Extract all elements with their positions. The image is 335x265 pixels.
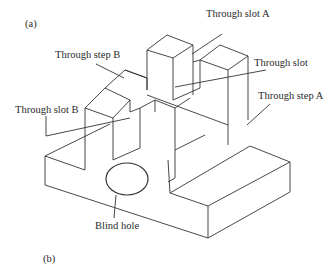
leader-through-step-b <box>96 64 124 78</box>
tall-right-right-top <box>228 56 248 70</box>
step-a-riser <box>168 160 170 193</box>
tall-left-block <box>147 35 193 95</box>
leader-through-slot-b <box>46 116 130 136</box>
step-a-back-edge <box>250 146 290 162</box>
left-block-right-top <box>113 100 130 118</box>
panel-b-label: (b) <box>43 253 55 265</box>
panel-a-label: (a) <box>25 18 37 30</box>
center-step <box>175 135 205 150</box>
label-through-step-b: Through step B <box>55 49 120 61</box>
label-through-slot-a: Through slot A <box>206 8 270 20</box>
tall-right-block <box>200 45 248 120</box>
label-through-step-a: Through step A <box>258 90 323 102</box>
leader-through-slot-a <box>192 34 222 54</box>
slot-a-back <box>193 60 200 62</box>
slot-b-floor <box>113 108 140 160</box>
blind-hole-ellipse <box>106 163 148 195</box>
leader-blind-hole <box>114 195 116 218</box>
slot-b-back <box>130 108 140 112</box>
base-front-top-edge <box>45 156 85 170</box>
step-a-inner-edge <box>170 146 250 193</box>
base-left-face <box>45 156 290 238</box>
step-a-front-edge <box>170 193 208 206</box>
left-block-top-front <box>85 108 113 118</box>
step-b <box>105 70 147 90</box>
tall-right-top-front <box>200 60 228 70</box>
left-block <box>85 88 130 170</box>
isometric-part-drawing <box>0 0 335 265</box>
machined-part-figure: (a) Through slot A Through slot Through … <box>0 0 335 265</box>
tall-left-top-front <box>147 50 173 58</box>
label-blind-hole: Blind hole <box>95 220 139 232</box>
step-b-edge <box>125 70 147 78</box>
tall-left-right-top <box>173 45 193 58</box>
leader-through-slot <box>175 70 266 87</box>
middle-block <box>140 100 175 182</box>
label-through-slot-b: Through slot B <box>15 104 79 116</box>
label-through-slot: Through slot <box>254 57 308 69</box>
slot-a-floor <box>173 60 200 100</box>
leader-through-step-a <box>247 104 270 125</box>
